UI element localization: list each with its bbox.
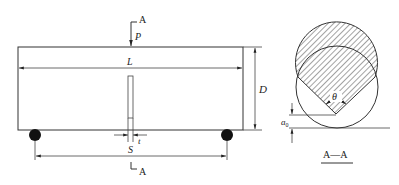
load-arrow: P bbox=[131, 28, 141, 46]
section-marker-bottom: A bbox=[131, 162, 147, 177]
span-label: L bbox=[126, 56, 133, 67]
section-marker-bottom-label: A bbox=[139, 166, 147, 177]
depth-label: D bbox=[258, 83, 267, 95]
angle-label: θ bbox=[332, 91, 337, 102]
section-marker-top: A bbox=[131, 14, 147, 28]
notch-width-label: t bbox=[138, 136, 141, 146]
notch bbox=[128, 76, 133, 130]
span-dimension: L bbox=[19, 56, 242, 68]
depth-dimension: D bbox=[243, 47, 267, 130]
section-view: θ a0 A—A bbox=[281, 22, 390, 163]
right-support bbox=[221, 129, 233, 141]
notch-depth-label: a0 bbox=[281, 117, 289, 128]
section-caption: A—A bbox=[321, 149, 353, 163]
section-marker-top-label: A bbox=[139, 14, 147, 25]
load-label: P bbox=[134, 31, 141, 42]
support-span-dimension: S bbox=[35, 141, 227, 160]
section-caption-label: A—A bbox=[323, 149, 348, 160]
bending-specimen-figure: A P L t D bbox=[0, 0, 399, 185]
left-support bbox=[29, 129, 41, 141]
beam-view: A P L t D bbox=[18, 14, 267, 177]
support-span-label: S bbox=[128, 144, 133, 155]
